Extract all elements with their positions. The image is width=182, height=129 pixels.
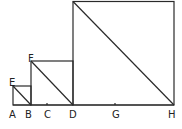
- label-g: G: [112, 109, 120, 120]
- label-b: B: [25, 109, 32, 120]
- label-f: F: [28, 53, 34, 64]
- label-c: C: [44, 109, 51, 120]
- label-a: A: [9, 109, 16, 120]
- medium-square-diagonal: [31, 61, 73, 105]
- large-square-diagonal: [73, 2, 174, 106]
- squares-diagram: E F A B C D G H: [0, 0, 182, 129]
- label-h: H: [168, 109, 176, 120]
- small-square-diagonal: [13, 86, 31, 105]
- label-d: D: [69, 109, 77, 120]
- label-e: E: [9, 77, 15, 88]
